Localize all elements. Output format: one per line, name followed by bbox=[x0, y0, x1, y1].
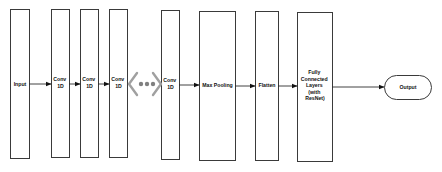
chevron-left-icon bbox=[129, 73, 137, 95]
input-label: Input bbox=[14, 81, 27, 87]
max-pooling-label: Max Pooling bbox=[202, 82, 233, 88]
dot-icon bbox=[145, 82, 149, 86]
output-label: Output bbox=[400, 84, 417, 90]
dot-icon bbox=[151, 82, 155, 86]
flatten-label: Flatten bbox=[258, 82, 275, 88]
ellipsis-icon bbox=[129, 73, 161, 95]
cnn-architecture-diagram: Input Conv 1D Conv 1D Conv 1D Conv 1D Ma… bbox=[0, 0, 442, 172]
dot-icon bbox=[139, 82, 143, 86]
